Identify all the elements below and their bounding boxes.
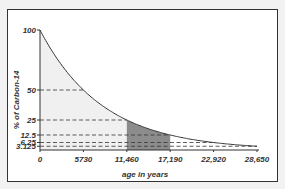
x-tick-label: 22,920: [200, 155, 226, 164]
x-tick-labels: 0573011,46017,19022,92028,650: [38, 150, 270, 164]
y-tick-label: 50: [27, 86, 36, 95]
x-axis-label: age in years: [122, 170, 169, 179]
half-life-chart: 100502512.56.253.125 0573011,46017,19022…: [0, 0, 285, 189]
x-tick-label: 28,650: [244, 155, 270, 164]
x-tick-label: 17,190: [158, 155, 183, 164]
x-tick-label: 11,460: [115, 155, 139, 164]
x-tick-label: 5730: [75, 155, 93, 164]
y-axis-label: % of Carbon-14: [12, 70, 21, 129]
x-tick-label: 0: [38, 155, 43, 164]
y-tick-label: 3.125: [16, 142, 37, 151]
y-tick-label: 100: [23, 26, 37, 35]
y-tick-label: 25: [26, 116, 36, 125]
